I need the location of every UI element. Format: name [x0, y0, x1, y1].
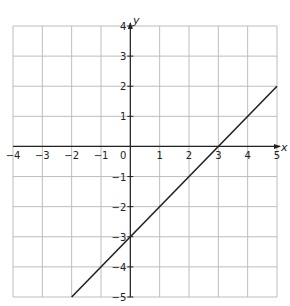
plot-series [72, 86, 277, 297]
line-y-equals-x-minus-3 [72, 86, 277, 297]
y-axis-label: y [132, 14, 140, 27]
y-tick-label: −4 [112, 262, 127, 273]
x-axis-label: x [280, 141, 288, 154]
x-tick-label: −2 [64, 150, 79, 161]
y-tick-label: 3 [120, 51, 126, 62]
x-tick-label: 4 [244, 150, 250, 161]
x-tick-label: −1 [94, 150, 109, 161]
x-tick-label: 2 [186, 150, 192, 161]
x-tick-label: −3 [35, 150, 50, 161]
y-tick-label: −3 [112, 232, 127, 243]
grid [13, 26, 277, 297]
x-tick-label: −4 [6, 150, 21, 161]
y-tick-label: 1 [120, 111, 126, 122]
y-tick-label: −2 [112, 202, 127, 213]
x-tick-label: 5 [274, 150, 280, 161]
y-tick-label: −5 [112, 292, 127, 303]
x-tick-label: 3 [215, 150, 221, 161]
y-tick-label: −1 [112, 172, 127, 183]
x-tick-label: 0 [120, 150, 126, 161]
tick-labels: −4−3−2−10123454321−1−2−3−4−5 [6, 21, 281, 303]
axes [13, 22, 281, 297]
y-tick-label: 4 [120, 21, 126, 32]
x-tick-label: 1 [156, 150, 162, 161]
y-tick-label: 2 [120, 81, 126, 92]
coordinate-plane: −4−3−2−10123454321−1−2−3−4−5 x y [0, 0, 290, 306]
